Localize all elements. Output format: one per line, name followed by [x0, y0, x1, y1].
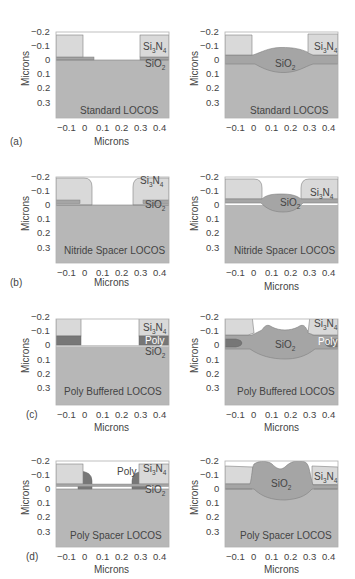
x-tick: 0 — [251, 267, 256, 278]
y-tick: 0 — [214, 54, 219, 65]
panel-title: Poly Spacer LOCOS — [70, 530, 162, 541]
y-tick: 0.3 — [37, 526, 50, 537]
x-tick: −0.1 — [57, 409, 76, 420]
x-tick: 0 — [251, 409, 256, 420]
x-tick: 0.2 — [115, 409, 128, 420]
y-axis-label: Microns — [20, 196, 31, 231]
y-tick: 0.3 — [37, 382, 50, 393]
y-tick: 0 — [45, 483, 50, 494]
y-tick: −0.2 — [200, 311, 219, 322]
y-tick: −0.2 — [31, 311, 50, 322]
y-tick: 0 — [214, 339, 219, 350]
label-sio2: SiO2 — [145, 346, 165, 359]
y-tick: 0.3 — [37, 242, 50, 253]
x-tick: 0.4 — [153, 122, 166, 133]
x-tick: 0.3 — [134, 551, 147, 562]
y-tick: 0 — [45, 339, 50, 350]
x-tick: 0.2 — [284, 551, 297, 562]
x-tick: 0.4 — [322, 409, 335, 420]
x-tick: 0.1 — [265, 122, 278, 133]
x-axis-label: Microns — [94, 564, 129, 575]
label-si3n4: Si3N4 — [314, 41, 337, 54]
y-tick: 0.2 — [37, 511, 50, 522]
label-sio2: SiO2 — [145, 199, 165, 212]
x-tick: −0.1 — [57, 551, 76, 562]
x-tick: −0.1 — [57, 122, 76, 133]
x-tick: 0 — [251, 122, 256, 133]
x-tick: 0.2 — [284, 267, 297, 278]
x-tick: 0.3 — [134, 122, 147, 133]
label-sio2: SiO2 — [145, 484, 165, 497]
x-tick: 0.1 — [265, 409, 278, 420]
x-tick: 0.3 — [303, 409, 316, 420]
y-axis-label: Microns — [20, 480, 31, 515]
y-tick: 0.2 — [37, 227, 50, 238]
x-tick: 0.3 — [134, 409, 147, 420]
x-tick: 0.1 — [96, 551, 109, 562]
y-tick: 0 — [214, 199, 219, 210]
y-tick: 0.1 — [37, 497, 50, 508]
x-tick: 0 — [82, 551, 87, 562]
x-tick: −0.1 — [226, 267, 245, 278]
x-tick: 0.4 — [322, 551, 335, 562]
x-tick: 0.2 — [115, 551, 128, 562]
nitride-mask-left — [56, 35, 83, 57]
y-tick: 0 — [45, 54, 50, 65]
y-tick: 0.3 — [206, 97, 219, 108]
x-tick: 0.2 — [115, 122, 128, 133]
x-tick: 0.2 — [284, 409, 297, 420]
y-tick: 0.3 — [37, 97, 50, 108]
x-tick: 0 — [82, 122, 87, 133]
x-tick: 0.1 — [265, 267, 278, 278]
label-si3n4: Si3N4 — [310, 187, 333, 200]
x-tick: 0.1 — [96, 409, 109, 420]
x-tick: 0.1 — [96, 122, 109, 133]
y-tick: −0.2 — [31, 455, 50, 466]
x-tick: 0 — [251, 551, 256, 562]
y-tick: 0.1 — [37, 354, 50, 365]
row-d-labels: Microns Microns −0.2 −0.1 0 0.1 0.2 0.3 … — [0, 429, 355, 579]
panel-title: Poly Spacer LOCOS — [240, 530, 332, 541]
x-tick: 0 — [82, 409, 87, 420]
y-axis-label: Microns — [189, 338, 200, 373]
y-tick: 0.1 — [37, 213, 50, 224]
x-tick: 0.2 — [284, 122, 297, 133]
x-tick: 0.3 — [303, 122, 316, 133]
y-tick: 0.1 — [206, 68, 219, 79]
label-si3n4: Si3N4 — [143, 463, 166, 476]
y-axis-label: Microns — [20, 51, 31, 86]
y-tick: −0.1 — [200, 40, 219, 51]
x-tick: −0.1 — [57, 267, 76, 278]
label-poly: Poly — [117, 466, 136, 477]
label-sio2: SiO2 — [145, 58, 165, 71]
y-tick: −0.2 — [200, 455, 219, 466]
panel-tag-c: (c) — [26, 409, 38, 420]
panel-title: Nitride Spacer LOCOS — [64, 245, 165, 256]
pad-oxide-left — [56, 57, 94, 60]
label-sio2: SiO2 — [271, 478, 291, 491]
y-tick: 0.2 — [37, 368, 50, 379]
panel-title: Poly Buffered LOCOS — [64, 386, 162, 397]
y-tick: 0.2 — [206, 511, 219, 522]
y-tick: −0.2 — [200, 171, 219, 182]
y-tick: −0.2 — [200, 26, 219, 37]
y-tick: 0.3 — [206, 382, 219, 393]
nitride-mask-left — [225, 35, 252, 55]
y-tick: −0.1 — [31, 469, 50, 480]
row-c-labels: Microns Microns −0.2 −0.1 0 0.1 0.2 0.3 … — [0, 287, 355, 432]
label-sio2: SiO2 — [280, 197, 300, 210]
y-tick: 0.2 — [37, 82, 50, 93]
y-tick: −0.1 — [200, 325, 219, 336]
label-si3n4: Si3N4 — [143, 322, 166, 335]
label-si3n4: Si3N4 — [140, 175, 163, 188]
y-axis-label: Microns — [189, 196, 200, 231]
label-si3n4: Si3N4 — [314, 318, 337, 331]
y-axis-label: Microns — [189, 480, 200, 515]
y-tick: −0.1 — [31, 185, 50, 196]
panel-title: Nitride Spacer LOCOS — [234, 245, 335, 256]
x-tick: 0.4 — [322, 122, 335, 133]
x-axis-label: Microns — [264, 564, 299, 575]
x-tick: −0.1 — [226, 551, 245, 562]
x-tick: 0.3 — [134, 267, 147, 278]
y-tick: 0.2 — [206, 227, 219, 238]
